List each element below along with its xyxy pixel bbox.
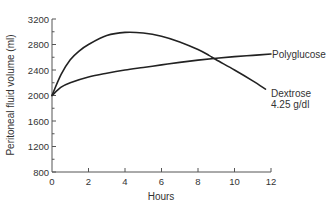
y-tick-label: 1600 — [28, 116, 49, 127]
series-lines — [52, 32, 271, 95]
y-axis-title: Peritoneal fluid volume (ml) — [5, 34, 16, 155]
x-axis-title: Hours — [148, 191, 175, 202]
y-tick-label: 800 — [33, 167, 49, 178]
x-tick-label: 0 — [49, 176, 54, 187]
y-tick-label: 3200 — [28, 14, 49, 25]
x-tick-label: 12 — [266, 176, 277, 187]
y-tick-label: 2800 — [28, 39, 49, 50]
series-label: 4.25 g/dl — [271, 99, 309, 110]
x-tick-label: 8 — [195, 176, 200, 187]
series-label: Dextrose — [271, 88, 311, 99]
y-tick-label: 2400 — [28, 65, 49, 76]
series-label: Polyglucose — [272, 49, 326, 60]
y-tick-label: 1200 — [28, 141, 49, 152]
y-tick-label: 2000 — [28, 90, 49, 101]
x-tick-label: 4 — [122, 176, 127, 187]
x-tick-label: 2 — [86, 176, 91, 187]
x-tick-label: 6 — [159, 176, 164, 187]
x-axis: 024681012 — [49, 168, 276, 187]
series-line-polyglucose — [52, 54, 271, 95]
series-labels: PolyglucoseDextrose4.25 g/dl — [271, 49, 326, 111]
x-tick-label: 10 — [229, 176, 240, 187]
chart: 800120016002000240028003200 024681012 Pe… — [0, 0, 331, 211]
series-line-dextrose-4-25-g-dl — [52, 32, 266, 95]
